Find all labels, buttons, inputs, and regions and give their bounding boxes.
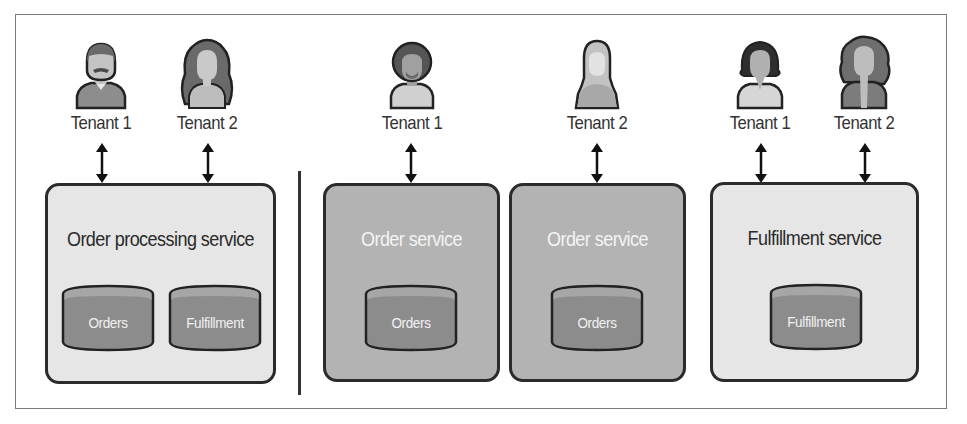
tenant-label: Tenant 1 [61, 112, 140, 134]
order-processing-service-box: Order processing service Orders Fulfillm… [45, 183, 276, 384]
tenant-label: Tenant 1 [720, 112, 799, 134]
orders-database: Orders [364, 284, 458, 352]
bidirectional-arrow-icon [590, 142, 604, 184]
fulfillment-database: Fulfillment [168, 284, 262, 352]
tenant-label: Tenant 2 [167, 112, 246, 134]
tenant-2-order: Tenant 2 [552, 38, 642, 134]
orders-database: Orders [550, 284, 644, 352]
bidirectional-arrow-icon [201, 142, 215, 184]
tenant-label: Tenant 1 [372, 112, 451, 134]
bidirectional-arrow-icon [95, 142, 109, 184]
order-service-box-1: Order service Orders [323, 183, 500, 382]
person-woman-hijab-icon [572, 38, 622, 110]
bidirectional-arrow-icon [754, 142, 768, 184]
database-label: Orders [555, 314, 640, 331]
fulfillment-database: Fulfillment [769, 283, 863, 351]
person-woman-bob-hair-icon [734, 38, 786, 110]
person-woman-long-hair-icon [177, 38, 237, 110]
person-man-afro-beard-icon [387, 40, 437, 110]
tenant-label: Tenant 2 [824, 112, 903, 134]
tenant-2-fulfillment: Tenant 2 [819, 34, 909, 134]
bidirectional-arrow-icon [858, 142, 872, 184]
architecture-divider [298, 171, 301, 395]
orders-database: Orders [61, 284, 155, 352]
tenant-1-order: Tenant 1 [367, 40, 457, 134]
person-man-mustache-icon [73, 40, 129, 110]
database-label: Orders [66, 314, 151, 331]
database-label: Orders [369, 314, 454, 331]
tenant-1-left: Tenant 1 [56, 40, 146, 134]
service-title: Order service [335, 228, 489, 251]
tenant-1-fulfillment: Tenant 1 [715, 38, 805, 134]
tenant-2-left: Tenant 2 [162, 38, 252, 134]
tenant-label: Tenant 2 [557, 112, 636, 134]
service-title: Order service [521, 228, 675, 251]
order-service-box-2: Order service Orders [509, 183, 686, 382]
service-title: Order processing service [59, 228, 262, 251]
person-woman-curly-hair-icon [836, 34, 892, 110]
database-label: Fulfillment [774, 313, 859, 330]
fulfillment-service-box: Fulfillment service Fulfillment [710, 182, 919, 382]
bidirectional-arrow-icon [404, 142, 418, 184]
service-title: Fulfillment service [723, 227, 906, 250]
database-label: Fulfillment [173, 314, 258, 331]
